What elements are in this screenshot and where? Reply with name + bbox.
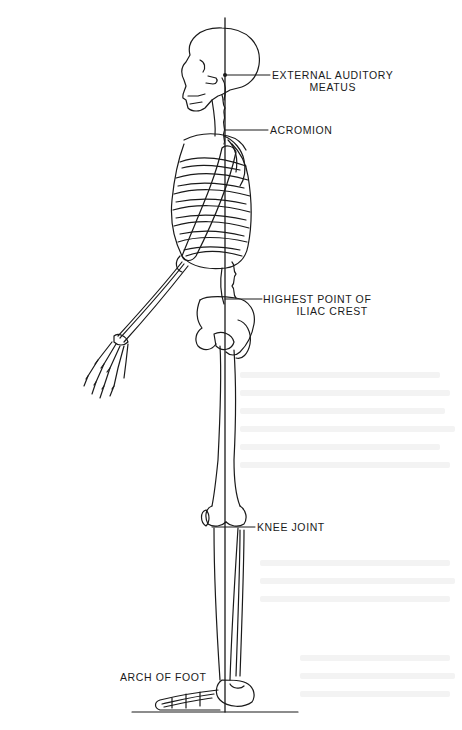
tibia-fibula bbox=[214, 528, 244, 680]
hand bbox=[84, 334, 128, 398]
label-external-auditory-meatus: EXTERNAL AUDITORY MEATUS bbox=[272, 69, 393, 93]
humerus bbox=[182, 146, 236, 261]
label-knee-joint: KNEE JOINT bbox=[257, 521, 325, 533]
femur bbox=[206, 346, 246, 526]
cervical-spine bbox=[212, 95, 225, 144]
label-arch-of-foot: ARCH OF FOOT bbox=[120, 671, 207, 683]
label-line: MEATUS bbox=[272, 81, 393, 93]
label-line: ACROMION bbox=[270, 124, 333, 136]
label-acromion: ACROMION bbox=[270, 124, 333, 136]
patella bbox=[202, 510, 210, 526]
shoulder-girdle bbox=[184, 134, 246, 186]
rib-cage bbox=[171, 144, 251, 269]
foot bbox=[156, 680, 255, 710]
label-line: EXTERNAL AUDITORY bbox=[272, 69, 393, 81]
forearm-radius-ulna bbox=[118, 256, 188, 342]
skeleton-diagram bbox=[0, 0, 462, 730]
label-line: ILIAC CREST bbox=[263, 305, 371, 317]
skull bbox=[182, 28, 260, 111]
label-line: KNEE JOINT bbox=[257, 521, 325, 533]
label-iliac-crest: HIGHEST POINT OF ILIAC CREST bbox=[263, 293, 371, 317]
label-line: HIGHEST POINT OF bbox=[263, 293, 371, 305]
pointer-ear-dot bbox=[223, 73, 227, 77]
label-line: ARCH OF FOOT bbox=[120, 671, 207, 683]
